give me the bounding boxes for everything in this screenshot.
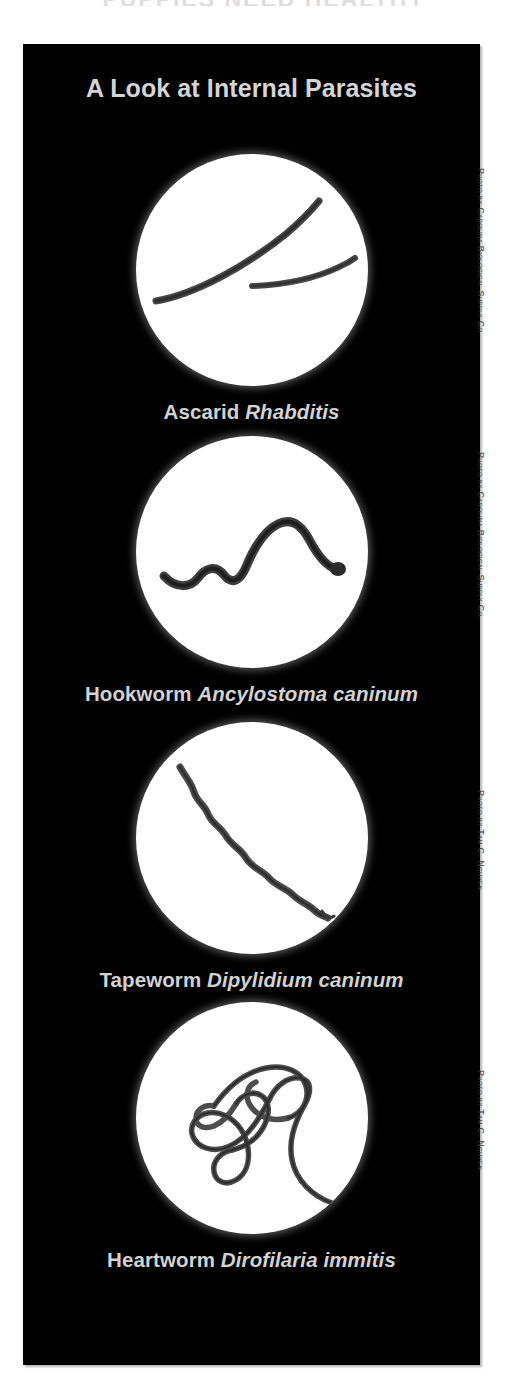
micrograph-disc-wrap-ascarid [23,154,480,386]
figure-ascarid: Ascarid Rhabditis [23,154,480,424]
tapeworm-micrograph [136,722,368,954]
figure-hookworm: Hookworm Ancylostoma caninum [23,436,480,706]
caption-common-name-hookworm: Hookworm [85,682,192,705]
caption-scientific-name-hookworm: Ancylostoma caninum [197,682,418,705]
figure-heartworm: Heartworm Dirofilaria immitis [23,1002,480,1272]
internal-parasites-figure-panel: A Look at Internal Parasites Ascarid Rha… [23,44,480,1365]
micrograph-disc-heartworm [136,1002,368,1234]
caption-common-name-ascarid: Ascarid [164,400,240,423]
photo-credit-tapeworm: Photo by Tam C. Nguyen. [476,790,486,1090]
caption-ascarid: Ascarid Rhabditis [23,400,480,424]
micrograph-disc-tapeworm [136,722,368,954]
caption-hookworm: Hookworm Ancylostoma caninum [23,682,480,706]
caption-scientific-name-ascarid: Rhabditis [245,400,339,423]
caption-scientific-name-tapeworm: Dipylidium caninum [207,968,404,991]
photo-credit-heartworm: Photo by Tam C. Nguyen. [476,1070,486,1370]
hookworm-micrograph [136,436,368,668]
bleed-headline-above-panel: PUPPIES NEED HEALTHY [0,0,528,6]
caption-common-name-tapeworm: Tapeworm [99,968,201,991]
ascarid-roundworm-micrograph [136,154,368,386]
heartworm-micrograph [136,1002,368,1234]
micrograph-disc-ascarid [136,154,368,386]
caption-heartworm: Heartworm Dirofilaria immitis [23,1248,480,1272]
micrograph-disc-wrap-heartworm [23,1002,480,1234]
micrograph-disc-hookworm [136,436,368,668]
photo-credit-hookworm: Photo by Carolina Biological Supply Co. [476,452,486,752]
figure-tapeworm: Tapeworm Dipylidium caninum [23,722,480,992]
micrograph-disc-wrap-hookworm [23,436,480,668]
micrograph-disc-wrap-tapeworm [23,722,480,954]
caption-scientific-name-heartworm: Dirofilaria immitis [221,1248,396,1271]
photo-credit-ascarid: Photo by Carolina Biological Supply Co. [476,168,486,468]
panel-title: A Look at Internal Parasites [23,74,480,103]
caption-tapeworm: Tapeworm Dipylidium caninum [23,968,480,992]
caption-common-name-heartworm: Heartworm [107,1248,215,1271]
